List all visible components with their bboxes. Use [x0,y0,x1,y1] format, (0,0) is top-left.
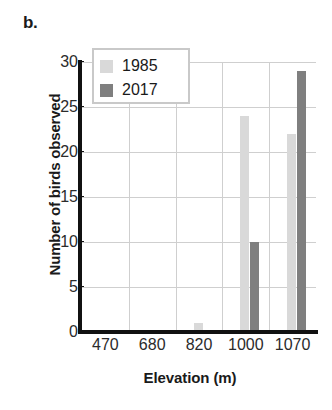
x-axis-line [78,330,318,334]
figure-panel-b: b. Number of birds observed Elevation (m… [0,0,332,410]
bar-1985-1000 [240,116,249,332]
gridline-horizontal [82,242,316,243]
y-axis-tick-label: 10 [38,234,78,250]
legend-swatch-icon-1985 [100,60,113,73]
x-axis-tick-label: 680 [139,336,166,354]
x-axis-tick-label: 1070 [275,336,311,354]
legend-label: 1985 [122,58,158,74]
panel-label: b. [23,14,38,31]
bar-2017-1000 [250,242,259,332]
y-axis-tick-label: 0 [38,324,78,340]
x-axis-tick-group: 47068082010001070 [82,336,316,362]
bar-1985-1070 [287,134,296,332]
y-axis-line [78,60,82,334]
gridline-vertical [269,62,270,332]
gridline-vertical [222,62,223,332]
gridline-horizontal [82,197,316,198]
legend-item-1985: 1985 [100,54,182,78]
bar-2017-1070 [297,71,306,332]
gridline-horizontal [82,152,316,153]
gridline-horizontal [82,107,316,108]
x-axis-title: Elevation (m) [60,369,320,386]
y-axis-tick-label: 5 [38,279,78,295]
y-axis-tick-label: 20 [38,144,78,160]
y-axis-tick-label: 30 [38,54,78,70]
y-axis-tick-label: 25 [38,99,78,115]
y-axis-tick-label: 15 [38,189,78,205]
x-axis-tick-label: 1000 [228,336,264,354]
legend-item-2017: 2017 [100,78,182,102]
x-axis-tick-label: 470 [92,336,119,354]
legend: 19852017 [92,48,190,104]
legend-swatch-icon-2017 [100,84,113,97]
y-axis-tick-group: 051015202530 [30,62,78,332]
legend-label: 2017 [122,82,158,98]
gridline-horizontal [82,287,316,288]
x-axis-tick-label: 820 [186,336,213,354]
